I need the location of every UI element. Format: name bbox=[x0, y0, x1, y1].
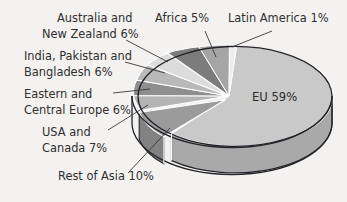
label-india-pakistan-bangladesh-line1: India, Pakistan and bbox=[24, 49, 132, 63]
label-eu: EU 59% bbox=[252, 90, 297, 104]
label-latin-america: Latin America 1% bbox=[228, 11, 329, 25]
label-eastern-central-europe-line2: Central Europe 6% bbox=[24, 103, 131, 117]
label-usa-canada-line2: Canada 7% bbox=[42, 141, 107, 155]
label-australia-new-zealand-line2: New Zealand 6% bbox=[42, 27, 139, 41]
pie-chart-svg: Africa 5% Latin America 1% Australia and… bbox=[0, 0, 347, 202]
label-australia-new-zealand-line1: Australia and bbox=[57, 11, 132, 25]
label-eastern-central-europe-line1: Eastern and bbox=[24, 87, 92, 101]
label-africa: Africa 5% bbox=[155, 11, 209, 25]
pie-chart-figure: Africa 5% Latin America 1% Australia and… bbox=[0, 0, 347, 202]
label-india-pakistan-bangladesh-line2: Bangladesh 6% bbox=[24, 65, 113, 79]
label-rest-of-asia: Rest of Asia 10% bbox=[58, 169, 154, 183]
label-usa-canada-line1: USA and bbox=[42, 125, 91, 139]
